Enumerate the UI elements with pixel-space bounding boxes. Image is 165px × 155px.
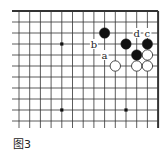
black-stone: [121, 39, 131, 49]
move-label-d: d: [133, 28, 140, 39]
black-stone: [132, 50, 142, 60]
star-point: [60, 108, 63, 111]
move-label-a: a: [102, 50, 108, 61]
white-stone: [132, 61, 142, 71]
move-label-b: b: [91, 39, 97, 50]
star-point: [60, 42, 63, 45]
black-stone: [99, 28, 109, 38]
figure-caption: 图3: [13, 135, 31, 151]
white-stone: [142, 50, 152, 60]
go-board-diagram: dcba: [0, 0, 165, 135]
move-label-c: c: [145, 28, 151, 39]
star-point: [124, 108, 127, 111]
black-stone: [142, 39, 152, 49]
white-stone: [142, 61, 152, 71]
white-stone: [110, 61, 120, 71]
